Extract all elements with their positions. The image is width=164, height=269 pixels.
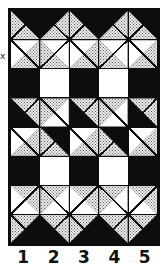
column-label-5: 5 [130,246,160,268]
quilt-cell-r2c4 [99,40,127,68]
quilt-cell-r7c3 [70,186,98,214]
quilt-cell-r3c2 [40,69,68,97]
quilt-pattern-grid [8,8,160,246]
quilt-cell-r5c4 [99,128,127,156]
quilt-cell-r4c2 [40,98,68,126]
x-axis-mark: x [0,51,5,61]
quilt-cell-r6c4 [99,157,127,185]
quilt-cell-r6c5 [129,157,157,185]
column-label-4: 4 [99,246,129,268]
quilt-cell-r1c3 [70,11,98,39]
quilt-cell-r1c5 [129,11,157,39]
quilt-cell-r7c2 [40,186,68,214]
quilt-cell-r2c3 [70,40,98,68]
quilt-cell-r1c4 [99,11,127,39]
quilt-cell-r3c3 [70,69,98,97]
figure-canvas: x 12345 [0,0,164,269]
quilt-cell-r6c2 [40,157,68,185]
quilt-cell-r4c1 [11,98,39,126]
quilt-cell-r8c1 [11,215,39,243]
quilt-cell-r5c2 [40,128,68,156]
quilt-cell-r5c1 [11,128,39,156]
quilt-cell-r3c4 [99,69,127,97]
quilt-cell-r2c1 [11,40,39,68]
quilt-cell-r7c5 [129,186,157,214]
quilt-cell-r1c2 [40,11,68,39]
quilt-cell-r1c1 [11,11,39,39]
column-label-3: 3 [69,246,99,268]
quilt-cell-r7c4 [99,186,127,214]
quilt-cell-r3c5 [129,69,157,97]
quilt-cell-r2c2 [40,40,68,68]
quilt-cell-r3c1 [11,69,39,97]
quilt-cell-r2c5 [129,40,157,68]
column-label-1: 1 [8,246,38,268]
quilt-cell-r6c1 [11,157,39,185]
column-label-2: 2 [38,246,68,268]
quilt-cell-r8c5 [129,215,157,243]
quilt-cell-r7c1 [11,186,39,214]
quilt-cell-r6c3 [70,157,98,185]
quilt-cell-r5c5 [129,128,157,156]
quilt-cell-r8c3 [70,215,98,243]
quilt-cell-r4c4 [99,98,127,126]
quilt-cell-r8c2 [40,215,68,243]
quilt-cell-r4c3 [70,98,98,126]
quilt-cell-r5c3 [70,128,98,156]
quilt-cell-r8c4 [99,215,127,243]
quilt-cell-r4c5 [129,98,157,126]
column-labels-row: 12345 [8,246,160,268]
